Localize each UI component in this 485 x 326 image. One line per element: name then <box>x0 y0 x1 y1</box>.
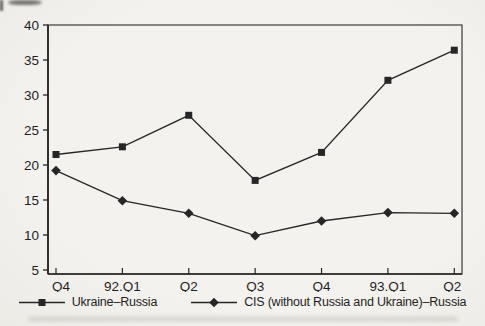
legend-item-ukraine-russia: Ukraine–Russia <box>19 295 157 309</box>
y-tick-label: 35 <box>24 53 39 68</box>
x-tick-label: Q3 <box>246 279 264 292</box>
data-point-diamond <box>383 208 393 218</box>
data-point-diamond <box>184 209 194 219</box>
y-tick-label: 30 <box>24 88 39 103</box>
data-point-square <box>384 77 391 84</box>
x-tick-label: 93.Q1 <box>370 279 407 292</box>
y-tick-label: 40 <box>24 18 39 33</box>
y-tick-label: 15 <box>24 193 39 208</box>
data-point-diamond <box>51 166 61 176</box>
y-tick-label: 5 <box>31 263 39 278</box>
scan-artifact <box>0 0 3 11</box>
scan-artifact <box>8 0 42 5</box>
legend-square-marker <box>38 299 45 306</box>
figure: 510152025303540Q492.Q1Q2Q3Q493.Q1Q2 Ukra… <box>0 0 485 326</box>
scan-artifact <box>28 317 458 321</box>
x-tick-label: 92.Q1 <box>104 279 141 292</box>
data-point-square <box>119 143 126 150</box>
y-tick-label: 10 <box>24 228 39 243</box>
legend-label: Ukraine–Russia <box>72 295 157 309</box>
legend-label: CIS (without Russia and Ukraine)–Russia <box>244 295 466 309</box>
data-point-diamond <box>317 216 327 226</box>
legend-item-cis-russia: CIS (without Russia and Ukraine)–Russia <box>191 295 466 309</box>
data-point-square <box>53 151 60 158</box>
y-tick-label: 20 <box>24 158 39 173</box>
chart-canvas: 510152025303540Q492.Q1Q2Q3Q493.Q1Q2 <box>0 0 485 292</box>
data-point-diamond <box>250 231 260 241</box>
data-point-square <box>252 177 259 184</box>
diamond-marker-icon <box>191 296 237 309</box>
data-point-square <box>318 149 325 156</box>
y-tick-label: 25 <box>24 123 39 138</box>
x-tick-label: Q4 <box>52 279 71 292</box>
data-point-diamond <box>450 209 460 219</box>
data-point-square <box>185 112 192 119</box>
series-line-square <box>56 50 454 180</box>
legend: Ukraine–Russia CIS (without Russia and U… <box>0 295 485 309</box>
square-marker-icon <box>19 296 65 309</box>
x-tick-label: Q2 <box>443 279 461 292</box>
x-tick-label: Q4 <box>313 279 332 292</box>
data-point-diamond <box>118 196 128 206</box>
data-point-square <box>451 47 458 54</box>
legend-diamond-marker <box>209 297 219 307</box>
x-tick-label: Q2 <box>180 279 198 292</box>
